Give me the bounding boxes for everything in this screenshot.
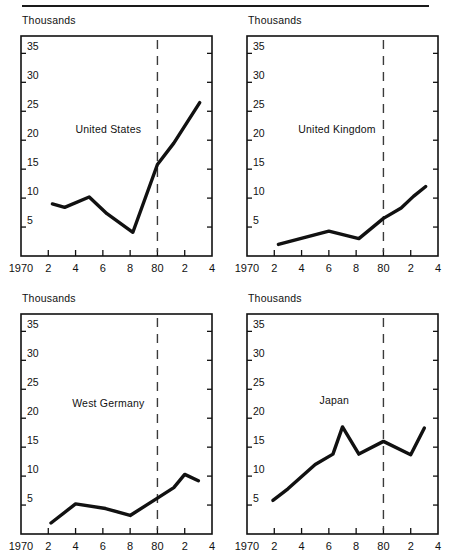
x-tick-label: 80 xyxy=(377,262,389,274)
chart-panel-united-states: Thousands 5101520253035197024688024Unite… xyxy=(0,12,226,284)
x-tick-label: 2 xyxy=(182,540,188,552)
x-tick-label: 2 xyxy=(182,262,188,274)
series-title-label: West Germany xyxy=(72,397,145,409)
x-tick-label: 4 xyxy=(299,540,305,552)
y-tick-label: 10 xyxy=(27,185,39,197)
x-tick-label: 8 xyxy=(127,540,133,552)
y-tick-label: 10 xyxy=(253,463,265,475)
x-tick-label: 2 xyxy=(45,262,51,274)
x-tick-label: 4 xyxy=(73,540,79,552)
x-tick-label: 6 xyxy=(100,540,106,552)
y-tick-label: 30 xyxy=(253,347,265,359)
y-tick-label: 15 xyxy=(27,434,39,446)
y-tick-label: 25 xyxy=(253,376,265,388)
y-tick-label: 15 xyxy=(253,434,265,446)
x-tick-label: 4 xyxy=(299,262,305,274)
chart-svg-united-kingdom: 5101520253035197024688024United Kingdom xyxy=(226,12,452,284)
x-tick-label: 8 xyxy=(353,540,359,552)
chart-panel-west-germany: Thousands 5101520253035197024688024West … xyxy=(0,290,226,560)
y-tick-label: 25 xyxy=(27,98,39,110)
y-tick-label: 35 xyxy=(27,40,39,52)
x-tick-label: 2 xyxy=(271,540,277,552)
y-tick-label: 35 xyxy=(253,318,265,330)
x-tick-label: 8 xyxy=(127,262,133,274)
x-tick-label: 6 xyxy=(326,540,332,552)
y-tick-label: 5 xyxy=(253,214,259,226)
x-tick-label: 4 xyxy=(435,540,441,552)
x-tick-label: 80 xyxy=(151,540,163,552)
x-tick-label: 4 xyxy=(209,262,215,274)
y-tick-label: 30 xyxy=(27,347,39,359)
x-tick-label: 4 xyxy=(435,262,441,274)
series-title-label: United Kingdom xyxy=(298,123,376,135)
y-tick-label: 15 xyxy=(253,156,265,168)
header-rule xyxy=(22,5,429,7)
x-tick-label: 80 xyxy=(151,262,163,274)
data-series-line xyxy=(52,103,199,233)
series-title-label: Japan xyxy=(320,394,350,406)
y-tick-label: 35 xyxy=(27,318,39,330)
data-series-line xyxy=(51,474,198,523)
y-tick-label: 30 xyxy=(27,69,39,81)
y-tick-label: 10 xyxy=(27,463,39,475)
x-tick-label: 4 xyxy=(73,262,79,274)
y-tick-label: 25 xyxy=(27,376,39,388)
y-tick-label: 20 xyxy=(253,405,265,417)
x-tick-label: 1970 xyxy=(9,540,33,552)
chart-svg-west-germany: 5101520253035197024688024West Germany xyxy=(0,290,226,560)
data-series-line xyxy=(278,187,425,245)
y-tick-label: 30 xyxy=(253,69,265,81)
x-tick-label: 6 xyxy=(326,262,332,274)
y-tick-label: 20 xyxy=(27,405,39,417)
x-tick-label: 1970 xyxy=(9,262,33,274)
x-tick-label: 4 xyxy=(209,540,215,552)
y-tick-label: 5 xyxy=(27,492,33,504)
x-tick-label: 2 xyxy=(408,262,414,274)
y-tick-label: 25 xyxy=(253,98,265,110)
x-tick-label: 2 xyxy=(271,262,277,274)
chart-panel-japan: Thousands 5101520253035197024688024Japan xyxy=(226,290,452,560)
y-tick-label: 35 xyxy=(253,40,265,52)
x-tick-label: 2 xyxy=(45,540,51,552)
y-tick-label: 20 xyxy=(27,127,39,139)
y-tick-label: 10 xyxy=(253,185,265,197)
x-tick-label: 80 xyxy=(377,540,389,552)
y-tick-label: 5 xyxy=(253,492,259,504)
x-tick-label: 6 xyxy=(100,262,106,274)
y-tick-label: 15 xyxy=(27,156,39,168)
chart-panel-united-kingdom: Thousands 5101520253035197024688024Unite… xyxy=(226,12,452,284)
y-tick-label: 5 xyxy=(27,214,33,226)
data-series-line xyxy=(273,427,424,501)
x-tick-label: 8 xyxy=(353,262,359,274)
x-tick-label: 1970 xyxy=(235,540,259,552)
x-tick-label: 1970 xyxy=(235,262,259,274)
x-tick-label: 2 xyxy=(408,540,414,552)
y-tick-label: 20 xyxy=(253,127,265,139)
chart-svg-united-states: 5101520253035197024688024United States xyxy=(0,12,226,284)
chart-svg-japan: 5101520253035197024688024Japan xyxy=(226,290,452,560)
series-title-label: United States xyxy=(75,123,141,135)
